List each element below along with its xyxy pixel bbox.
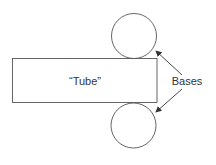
top-base-circle	[112, 14, 157, 59]
arrow-to-bottom-base	[156, 89, 182, 112]
tube-label: “Tube”	[69, 75, 101, 87]
arrow-to-top-base	[156, 51, 182, 75]
bottom-base-circle	[111, 103, 156, 148]
cylinder-net-diagram: “Tube” Bases	[0, 0, 216, 165]
bases-label: Bases	[172, 75, 203, 87]
